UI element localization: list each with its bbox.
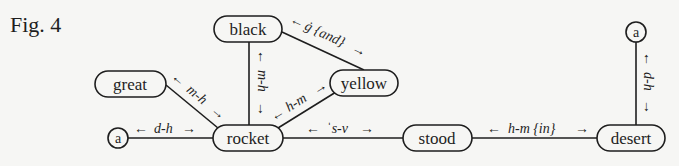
edge-label-stood-desert: h-m {in} <box>508 121 556 136</box>
edge-label-rocket-stood: ˈs-v <box>327 121 349 136</box>
node-yellow-label: yellow <box>341 74 388 93</box>
node-black-label: black <box>230 20 267 39</box>
dependency-graph: black yellow great a rocket stood desert… <box>0 0 679 166</box>
node-a-left-label: a <box>115 131 122 146</box>
arrow-right-icon: → <box>641 100 656 114</box>
node-desert-label: desert <box>611 129 652 148</box>
node-rocket-label: rocket <box>227 129 270 148</box>
arrow-right-icon: → <box>255 102 270 116</box>
edge-label-a-desert: d-h <box>641 72 656 91</box>
arrow-left-icon: ← <box>255 50 270 64</box>
arrow-right-icon: → <box>208 102 228 122</box>
arrow-left-icon: ← <box>641 52 656 66</box>
arrow-right-icon: → <box>310 77 330 97</box>
arrow-right-icon: → <box>360 121 374 136</box>
arrow-right-icon: → <box>350 40 369 60</box>
node-a-right-label: a <box>633 25 640 40</box>
edge-label-black-rocket: m-h <box>255 70 270 92</box>
arrow-right-icon: → <box>182 121 196 136</box>
arrow-left-icon: ← <box>134 121 148 136</box>
arrow-left-icon: ← <box>487 121 501 136</box>
node-stood-label: stood <box>419 129 456 148</box>
arrow-left-icon: ← <box>306 121 320 136</box>
edge-label-a-rocket: d-h <box>154 121 173 136</box>
arrow-left-icon: ← <box>169 69 189 89</box>
arrow-right-icon: → <box>575 121 589 136</box>
node-great-label: great <box>113 75 147 94</box>
